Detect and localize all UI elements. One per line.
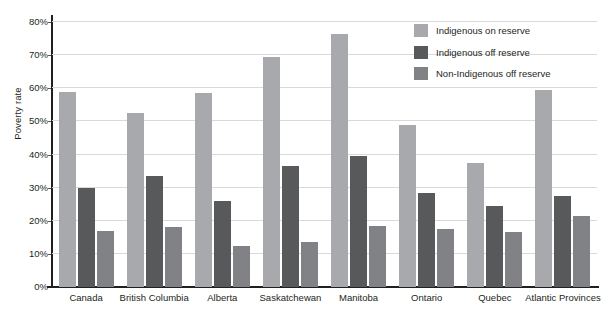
bar	[78, 188, 95, 287]
bar	[437, 229, 454, 287]
bar	[573, 216, 590, 287]
y-axis-tick-label: 40%	[8, 150, 48, 160]
chart-legend: Indigenous on reserveIndigenous off rese…	[414, 20, 604, 85]
bar	[467, 163, 484, 287]
legend-item-label: Indigenous off reserve	[436, 47, 530, 58]
bar	[127, 113, 144, 287]
legend-item: Indigenous off reserve	[414, 42, 604, 64]
legend-item: Indigenous on reserve	[414, 20, 604, 42]
bar	[554, 196, 571, 287]
bar	[97, 231, 114, 287]
bar	[331, 34, 348, 287]
bar	[399, 125, 416, 287]
bar	[165, 227, 182, 287]
y-axis-tick-label: 30%	[8, 183, 48, 193]
bar	[486, 206, 503, 287]
x-axis-tick-label: Atlantic Provinces	[523, 292, 603, 304]
bar	[233, 246, 250, 287]
poverty-rate-bar-chart: Poverty rate 0%10%20%30%40%50%60%70%80% …	[0, 0, 607, 325]
bar	[146, 176, 163, 287]
bar-group	[331, 22, 386, 287]
legend-item-label: Non-Indigenous off reserve	[436, 68, 550, 79]
bar	[418, 193, 435, 287]
legend-swatch-icon	[414, 67, 428, 80]
y-axis-tick-label: 70%	[8, 50, 48, 60]
bar	[350, 156, 367, 287]
y-axis-tick-label: 80%	[8, 17, 48, 27]
bar	[59, 92, 76, 287]
legend-item-label: Indigenous on reserve	[436, 25, 530, 36]
legend-swatch-icon	[414, 46, 428, 59]
y-axis-tick-label: 0%	[8, 282, 48, 292]
x-axis-labels: CanadaBritish ColumbiaAlbertaSaskatchewa…	[52, 292, 597, 325]
legend-item: Non-Indigenous off reserve	[414, 63, 604, 85]
bar-group	[59, 22, 114, 287]
y-axis-tick-label: 50%	[8, 116, 48, 126]
bar	[535, 90, 552, 287]
bar	[505, 232, 522, 287]
y-axis-ticks: 0%10%20%30%40%50%60%70%80%	[0, 0, 48, 325]
bar-group	[195, 22, 250, 287]
y-axis-tick-label: 20%	[8, 216, 48, 226]
bar	[301, 242, 318, 287]
bar	[282, 166, 299, 287]
bar	[369, 226, 386, 287]
bar	[214, 201, 231, 287]
y-axis-tick-label: 10%	[8, 249, 48, 259]
bar-group	[263, 22, 318, 287]
bar-group	[127, 22, 182, 287]
bar	[195, 93, 212, 287]
y-axis-line	[51, 15, 53, 287]
bar	[263, 57, 280, 287]
y-axis-tick-label: 60%	[8, 83, 48, 93]
legend-swatch-icon	[414, 24, 428, 37]
